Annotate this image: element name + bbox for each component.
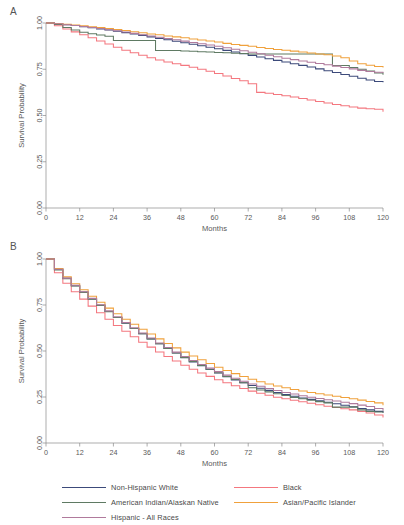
panel-b: B 0.000.250.500.751.00012243648607284961… bbox=[0, 235, 404, 475]
y-tick-label: 0.50 bbox=[35, 109, 44, 123]
legend-item-american-indian-alaskan-native: American Indian/Alaskan Native bbox=[62, 498, 234, 507]
y-tick-label: 0.50 bbox=[35, 344, 44, 358]
x-tick-label: 60 bbox=[211, 448, 219, 457]
x-tick-label: 36 bbox=[143, 448, 151, 457]
survival-curve-hispanic-all-races bbox=[46, 259, 383, 411]
x-tick-label: 72 bbox=[244, 213, 252, 222]
legend-swatch-icon bbox=[62, 517, 106, 518]
legend-label: Non-Hispanic White bbox=[111, 483, 178, 492]
x-axis-title: Months bbox=[202, 459, 227, 468]
legend-swatch-icon bbox=[234, 502, 278, 503]
legend-label: American Indian/Alaskan Native bbox=[111, 498, 219, 507]
survival-curve-black bbox=[46, 259, 383, 418]
y-tick-label: 0.75 bbox=[35, 298, 44, 312]
x-tick-label: 0 bbox=[44, 213, 48, 222]
legend: Non-Hispanic WhiteBlackAmerican Indian/A… bbox=[0, 478, 404, 525]
y-tick-label: 0.25 bbox=[35, 155, 44, 169]
survival-curve-black bbox=[46, 23, 383, 112]
x-tick-label: 84 bbox=[278, 213, 286, 222]
x-tick-label: 48 bbox=[177, 213, 185, 222]
x-tick-label: 96 bbox=[312, 213, 320, 222]
y-tick-label: 1.00 bbox=[35, 16, 44, 30]
panel-b-plot: 0.000.250.500.751.0001224364860728496108… bbox=[0, 235, 404, 475]
survival-curve-asian-pacific-islander bbox=[46, 259, 383, 405]
legend-label: Hispanic - All Races bbox=[111, 513, 179, 522]
legend-label: Black bbox=[283, 483, 302, 492]
y-tick-label: 1.00 bbox=[35, 252, 44, 266]
y-tick-label: 0.00 bbox=[35, 436, 44, 450]
x-tick-label: 12 bbox=[76, 213, 84, 222]
y-tick-label: 0.75 bbox=[35, 62, 44, 76]
legend-item-black: Black bbox=[234, 483, 402, 492]
x-tick-label: 0 bbox=[44, 448, 48, 457]
survival-curve-non-hispanic-white bbox=[46, 259, 383, 413]
legend-item-hispanic-all-races: Hispanic - All Races bbox=[62, 513, 234, 522]
legend-label: Asian/Pacific Islander bbox=[283, 498, 356, 507]
legend-swatch-icon bbox=[62, 502, 106, 503]
legend-swatch-icon bbox=[62, 487, 106, 488]
y-tick-label: 0.25 bbox=[35, 390, 44, 404]
y-tick-label: 0.00 bbox=[35, 201, 44, 215]
x-tick-label: 108 bbox=[343, 213, 355, 222]
x-tick-label: 12 bbox=[76, 448, 84, 457]
x-tick-label: 60 bbox=[211, 213, 219, 222]
legend-item-asian-pacific-islander: Asian/Pacific Islander bbox=[234, 498, 402, 507]
survival-figure: A 0.000.250.500.751.00012243648607284961… bbox=[0, 0, 404, 525]
x-tick-label: 36 bbox=[143, 213, 151, 222]
legend-swatch-icon bbox=[234, 487, 278, 488]
survival-curve-american-indian-alaskan-native bbox=[46, 259, 383, 413]
x-tick-label: 108 bbox=[343, 448, 355, 457]
panel-a-plot: 0.000.250.500.751.0001224364860728496108… bbox=[0, 0, 404, 235]
y-axis-title: Survival Probability bbox=[17, 83, 26, 148]
panel-a: A 0.000.250.500.751.00012243648607284961… bbox=[0, 0, 404, 235]
x-axis-title: Months bbox=[202, 224, 227, 233]
x-tick-label: 24 bbox=[109, 213, 117, 222]
x-tick-label: 84 bbox=[278, 448, 286, 457]
y-axis-title: Survival Probability bbox=[17, 319, 26, 384]
x-tick-label: 120 bbox=[377, 448, 389, 457]
x-tick-label: 120 bbox=[377, 213, 389, 222]
x-tick-label: 72 bbox=[244, 448, 252, 457]
x-tick-label: 24 bbox=[109, 448, 117, 457]
x-tick-label: 48 bbox=[177, 448, 185, 457]
x-tick-label: 96 bbox=[312, 448, 320, 457]
legend-item-non-hispanic-white: Non-Hispanic White bbox=[62, 483, 234, 492]
